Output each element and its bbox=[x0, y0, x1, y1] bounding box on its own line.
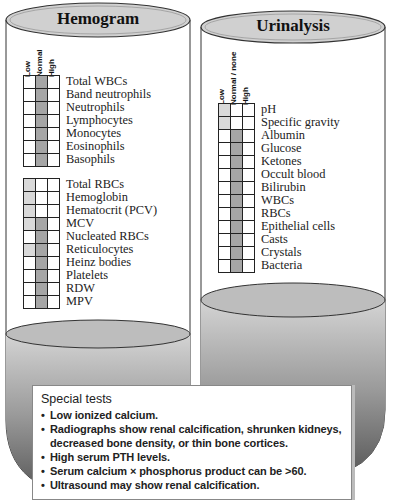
rbc-cell-low bbox=[24, 296, 36, 309]
bullet-icon: • bbox=[41, 422, 50, 436]
rbc-cell-low bbox=[24, 257, 36, 270]
urinalysis-cell-normal bbox=[231, 221, 243, 234]
urinalysis-cell-normal bbox=[231, 117, 243, 130]
wbc-cell-high bbox=[48, 141, 60, 154]
urinalysis-cell-low bbox=[219, 143, 231, 156]
special-tests-list: •Low ionized calcium.•Radiographs show r… bbox=[41, 408, 343, 492]
special-tests-heading: Special tests bbox=[41, 392, 343, 406]
wbc-cell-low bbox=[24, 115, 36, 128]
urinalysis-cell-low bbox=[219, 117, 231, 130]
rbc-cell-normal bbox=[36, 218, 48, 231]
urinalysis-cell-high bbox=[243, 260, 255, 273]
urinalysis-cell-high bbox=[243, 130, 255, 143]
hemogram-wbc-grid bbox=[23, 75, 60, 167]
urinalysis-cell-normal bbox=[231, 182, 243, 195]
wbc-cell-normal bbox=[36, 102, 48, 115]
urinalysis-grid-row bbox=[219, 221, 255, 234]
wbc-cell-normal bbox=[36, 128, 48, 141]
hemogram-wbc-labels: Total WBCsBand neutrophilsNeutrophilsLym… bbox=[66, 75, 151, 166]
rbc-cell-high bbox=[48, 205, 60, 218]
rbc-grid-row bbox=[24, 270, 60, 283]
rbc-cell-low bbox=[24, 231, 36, 244]
urinalysis-cell-normal bbox=[231, 234, 243, 247]
wbc-grid-row bbox=[24, 115, 60, 128]
wbc-cell-low bbox=[24, 141, 36, 154]
urinalysis-labels: pHSpecific gravityAlbuminGlucoseKetonesO… bbox=[261, 103, 340, 272]
urinalysis-cell-low bbox=[219, 130, 231, 143]
wbc-grid-row bbox=[24, 154, 60, 167]
urinalysis-cell-low bbox=[219, 208, 231, 221]
urinalysis-grid-row bbox=[219, 156, 255, 169]
urinalysis-cell-low bbox=[219, 221, 231, 234]
urinalysis-grid-row bbox=[219, 234, 255, 247]
wbc-row-label: Basophils bbox=[66, 153, 151, 166]
urinalysis-grid-row bbox=[219, 247, 255, 260]
rbc-cell-high bbox=[48, 244, 60, 257]
rbc-cell-low bbox=[24, 205, 36, 218]
urinalysis-grid bbox=[218, 103, 255, 273]
rbc-cell-high bbox=[48, 283, 60, 296]
wbc-cell-high bbox=[48, 89, 60, 102]
rbc-cell-high bbox=[48, 296, 60, 309]
rbc-grid-row bbox=[24, 205, 60, 218]
special-test-text: Ultrasound may show renal calcification. bbox=[50, 479, 259, 491]
rbc-cell-normal bbox=[36, 244, 48, 257]
wbc-cell-low bbox=[24, 89, 36, 102]
special-test-item: •Serum calcium × phosphorus product can … bbox=[41, 464, 343, 478]
urinalysis-cell-low bbox=[219, 182, 231, 195]
wbc-grid-row bbox=[24, 76, 60, 89]
wbc-cell-low bbox=[24, 154, 36, 167]
wbc-cell-high bbox=[48, 102, 60, 115]
hemogram-col-normal: Normal bbox=[35, 49, 44, 77]
wbc-cell-normal bbox=[36, 154, 48, 167]
rbc-cell-normal bbox=[36, 231, 48, 244]
rbc-cell-low bbox=[24, 192, 36, 205]
rbc-cell-high bbox=[48, 179, 60, 192]
urinalysis-cell-normal bbox=[231, 169, 243, 182]
urinalysis-cell-normal bbox=[231, 195, 243, 208]
special-test-item: •High serum PTH levels. bbox=[41, 450, 343, 464]
rbc-grid-row bbox=[24, 296, 60, 309]
urinalysis-cell-normal bbox=[231, 260, 243, 273]
special-test-text: Serum calcium × phosphorus product can b… bbox=[50, 465, 306, 477]
urinalysis-grid-row bbox=[219, 169, 255, 182]
wbc-cell-high bbox=[48, 115, 60, 128]
rbc-cell-high bbox=[48, 270, 60, 283]
urinalysis-cell-high bbox=[243, 143, 255, 156]
urinalysis-cell-normal bbox=[231, 104, 243, 117]
rbc-cell-low bbox=[24, 218, 36, 231]
urinalysis-cell-normal bbox=[231, 130, 243, 143]
special-test-item: •Radiographs show renal calcification, s… bbox=[41, 422, 343, 450]
rbc-cell-high bbox=[48, 192, 60, 205]
urinalysis-grid-row bbox=[219, 104, 255, 117]
rbc-cell-low bbox=[24, 283, 36, 296]
rbc-cell-normal bbox=[36, 205, 48, 218]
hemogram-title: Hemogram bbox=[20, 9, 176, 29]
rbc-cell-low bbox=[24, 179, 36, 192]
rbc-cell-normal bbox=[36, 179, 48, 192]
urinalysis-grid-row bbox=[219, 260, 255, 273]
urinalysis-cell-high bbox=[243, 182, 255, 195]
rbc-cell-high bbox=[48, 218, 60, 231]
urinalysis-grid-row bbox=[219, 195, 255, 208]
rbc-grid-row bbox=[24, 179, 60, 192]
rbc-grid-row bbox=[24, 257, 60, 270]
wbc-cell-high bbox=[48, 128, 60, 141]
hemogram-rbc-grid bbox=[23, 178, 60, 309]
wbc-cell-normal bbox=[36, 141, 48, 154]
urinalysis-cell-low bbox=[219, 169, 231, 182]
special-test-item: •Low ionized calcium. bbox=[41, 408, 343, 422]
urinalysis-cell-low bbox=[219, 195, 231, 208]
urinalysis-title: Urinalysis bbox=[215, 16, 371, 36]
rbc-row-label: MPV bbox=[66, 295, 157, 308]
rbc-cell-normal bbox=[36, 296, 48, 309]
rbc-cell-normal bbox=[36, 283, 48, 296]
urinalysis-grid-row bbox=[219, 117, 255, 130]
bullet-icon: • bbox=[41, 464, 50, 478]
wbc-cell-high bbox=[48, 154, 60, 167]
wbc-cell-high bbox=[48, 76, 60, 89]
bullet-icon: • bbox=[41, 408, 50, 422]
wbc-cell-normal bbox=[36, 76, 48, 89]
urinalysis-cell-high bbox=[243, 156, 255, 169]
urinalysis-cell-low bbox=[219, 234, 231, 247]
